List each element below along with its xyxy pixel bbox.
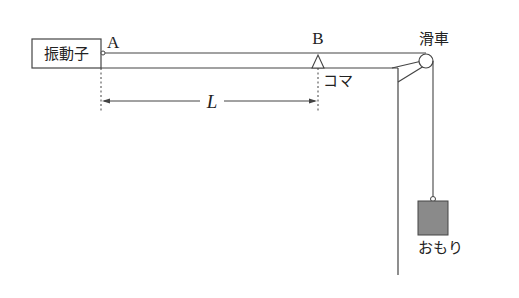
pulley-support-upper [392, 61, 422, 68]
vibrator-label: 振動子 [44, 45, 89, 63]
point-a-label: A [107, 33, 120, 52]
pulley-support-lower [398, 66, 424, 82]
pulley-label: 滑車 [419, 30, 449, 48]
string-vibration-apparatus: 振動子 おもり コマ A B 滑車 L [0, 0, 519, 298]
pulley-icon [419, 54, 433, 68]
arrow-left-icon [102, 99, 110, 104]
weight-label: おもり [418, 239, 463, 257]
vibrator: 振動子 [32, 39, 105, 68]
weight: おもり [418, 197, 463, 258]
length-label: L [206, 91, 218, 112]
bridge-icon [312, 55, 324, 68]
attachment-ring-icon [101, 51, 105, 55]
bridge-label: コマ [323, 72, 353, 90]
arrow-right-icon [309, 99, 317, 104]
weight-block [418, 201, 448, 235]
point-b-label: B [312, 29, 323, 48]
length-dimension: L [102, 91, 317, 112]
